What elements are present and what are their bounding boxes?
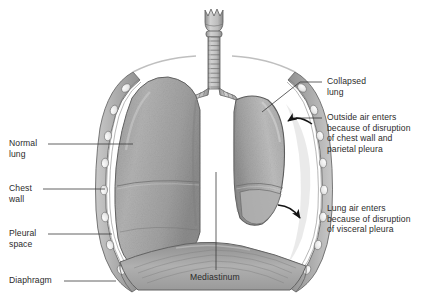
pleural-space-air xyxy=(286,104,310,266)
larynx xyxy=(205,9,223,37)
normal-lung xyxy=(115,77,200,266)
label-chest-wall: Chest wall xyxy=(9,183,32,204)
lung-air-arrow xyxy=(278,205,300,218)
illustration-canvas: Normal lung Chest wall Pleural space Dia… xyxy=(0,0,448,307)
label-outside-air: Outside air enters because of disruption… xyxy=(327,112,411,154)
label-mediastinum: Mediastinum xyxy=(190,272,240,283)
trachea xyxy=(208,37,220,89)
label-collapsed-lung: Collapsed lung xyxy=(327,76,366,97)
label-pleural-space: Pleural space xyxy=(9,228,36,249)
label-diaphragm: Diaphragm xyxy=(9,275,52,286)
label-normal-lung: Normal lung xyxy=(9,138,37,159)
outside-air-arrow xyxy=(288,118,312,124)
collapsed-lung xyxy=(234,96,285,225)
label-lung-air: Lung air enters because of disruption of… xyxy=(327,203,411,235)
